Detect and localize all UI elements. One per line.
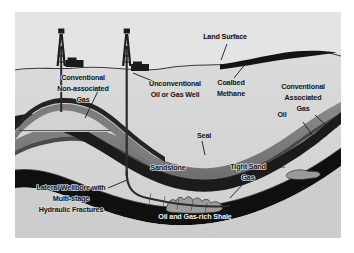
label-sandstone: Sandstone (150, 163, 186, 172)
label-tight-sand-gas-line2: Gas (241, 173, 254, 182)
label-conventional-non-associated-gas-line2: Non-associated (57, 84, 108, 93)
label-conventional-associated-gas-line1: Conventional (281, 82, 325, 91)
well-2-rig-building-roof (133, 62, 142, 65)
well-1-rig-building (66, 60, 84, 67)
label-coalbed-methane-line2: Methane (217, 89, 245, 98)
label-lateral-wellbore-line2: Multi-stage (53, 194, 89, 203)
label-unconventional-well-line2: Oil or Gas Well (151, 90, 200, 99)
tight-sand-lens (286, 170, 320, 180)
well-2-crown-block (124, 29, 130, 34)
label-conventional-non-associated-gas-line3: Gas (76, 95, 89, 104)
label-seal: Seal (197, 131, 211, 140)
label-conventional-non-associated-gas-line1: Conventional (61, 73, 105, 82)
label-conventional-associated-gas-line3: Gas (296, 104, 309, 113)
label-oil: Oil (277, 110, 286, 119)
screenshot-root: Land Surface Conventional Non-associated… (0, 0, 354, 253)
well-2-rig-building (131, 64, 149, 71)
label-conventional-associated-gas-line2: Associated (285, 93, 322, 102)
diagram-frame: Land Surface Conventional Non-associated… (15, 12, 341, 238)
label-unconventional-well-line1: Unconventional (149, 79, 201, 88)
label-coalbed-methane-line1: Coalbed (217, 78, 244, 87)
cross-section-svg: Land Surface Conventional Non-associated… (15, 12, 341, 238)
well-1-crown-block (58, 29, 64, 34)
label-oil-and-gas-rich-shale: Oil and Gas-rich Shale (158, 212, 232, 221)
label-lateral-wellbore-line3: Hydraulic Fractures (39, 205, 104, 214)
label-tight-sand-gas-line1: Tight Sand (230, 162, 266, 171)
label-lateral-wellbore-line1: Lateral Wellbore with (36, 183, 105, 192)
well-2-casing (126, 46, 128, 176)
well-1-rig-building-roof (68, 58, 77, 61)
label-land-surface: Land Surface (203, 32, 247, 41)
